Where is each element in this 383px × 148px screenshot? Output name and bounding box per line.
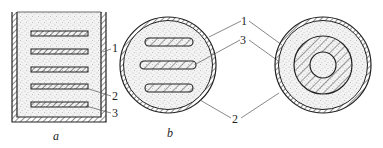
circle-c-core [310, 52, 336, 78]
caption-b: b [167, 126, 173, 140]
label-b-3: 3 [240, 33, 246, 47]
figure-b: 1 3 2 b [120, 14, 302, 140]
container-a-fill [17, 12, 101, 117]
label-a-1: 1 [112, 41, 118, 55]
label-a-2: 2 [112, 89, 118, 103]
caption-a: a [53, 129, 59, 143]
figure-c [275, 17, 371, 113]
plates-b [140, 38, 196, 92]
figure-a: 1 2 3 a [12, 12, 118, 143]
diagram-canvas: 1 2 3 a 1 3 2 b [0, 0, 383, 148]
label-b-2: 2 [232, 112, 238, 126]
label-a-3: 3 [112, 106, 118, 120]
label-b-1: 1 [241, 14, 247, 28]
